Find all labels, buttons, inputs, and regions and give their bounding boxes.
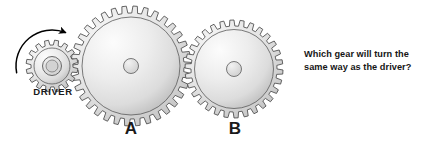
question-line-1: Which gear will turn the	[304, 48, 420, 61]
gear-b-graphic	[185, 20, 283, 118]
gear-diagram-stage: DRIVER A B Which gear will turn the same…	[0, 0, 427, 143]
question-line-2: same way as the driver?	[304, 61, 420, 74]
gear-a-graphic	[71, 6, 191, 126]
gear-a-label: A	[111, 120, 151, 137]
gear-b-label: B	[215, 120, 255, 137]
driver-gear-label: DRIVER	[18, 87, 88, 97]
question-text: Which gear will turn the same way as the…	[304, 48, 420, 73]
driver-gear-graphic	[26, 40, 78, 92]
